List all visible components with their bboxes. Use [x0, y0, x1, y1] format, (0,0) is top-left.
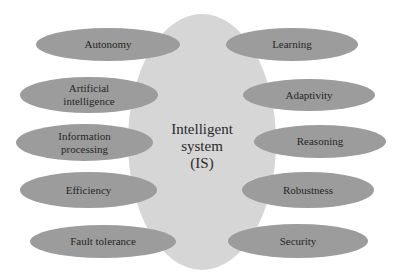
center-label-line-1: Intelligent — [128, 121, 276, 138]
node-label: Autonomy — [84, 38, 131, 51]
node-information-processing: Information processing — [16, 124, 153, 161]
node-autonomy: Autonomy — [36, 28, 180, 61]
node-artificial-intelligence: Artificial intelligence — [20, 77, 158, 113]
node-label: Security — [280, 235, 317, 248]
node-security: Security — [228, 224, 368, 258]
node-label-line-1: Artificial — [69, 82, 109, 95]
node-adaptivity: Adaptivity — [243, 79, 375, 111]
node-label: Fault tolerance — [70, 235, 136, 248]
node-label: Efficiency — [66, 184, 112, 197]
node-learning: Learning — [226, 28, 358, 61]
node-reasoning: Reasoning — [254, 125, 386, 158]
node-label: Reasoning — [297, 135, 343, 148]
node-efficiency: Efficiency — [20, 172, 157, 208]
center-label-line-3: (IS) — [128, 155, 276, 172]
node-label: Learning — [272, 38, 312, 51]
node-label: Robustness — [283, 184, 333, 197]
node-fault-tolerance: Fault tolerance — [30, 225, 176, 258]
node-robustness: Robustness — [242, 172, 374, 208]
node-label-line-1: Information — [58, 130, 111, 143]
node-label-line-2: intelligence — [63, 95, 114, 108]
node-label-line-2: processing — [61, 143, 108, 156]
node-label: Adaptivity — [285, 89, 332, 102]
